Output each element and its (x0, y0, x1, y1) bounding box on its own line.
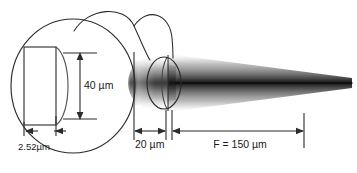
working-distance-label: 20 µm (135, 138, 165, 150)
focal-length-label: F = 150 µm (213, 138, 267, 150)
inset-fiber-body (24, 47, 56, 125)
inset-height-label: 40 µm (84, 79, 114, 91)
inset-width-label: 2.52µm (18, 141, 50, 152)
figure-root: 40 µm 2.52µm (0, 0, 357, 173)
figure-svg: 40 µm 2.52µm (0, 0, 357, 173)
